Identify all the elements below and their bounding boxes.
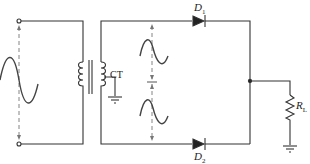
arrowhead-icon — [150, 136, 154, 141]
arrowhead-icon — [17, 25, 21, 30]
d1-label: D1 — [194, 2, 205, 16]
diode-d1-icon — [193, 16, 204, 26]
output-wire-top — [205, 21, 250, 144]
arrowhead-icon — [150, 75, 154, 80]
primary-wire-bottom — [21, 92, 83, 144]
arrowhead-icon — [150, 24, 154, 29]
input-terminal-top — [17, 19, 21, 23]
arrowhead-icon — [150, 84, 154, 89]
input-terminal-bottom — [17, 142, 21, 146]
upper-secondary-sine-wave-icon — [140, 40, 168, 64]
resistor-rl-icon — [286, 95, 294, 145]
ct-label: CT — [110, 70, 123, 80]
circuit-drawing — [0, 0, 310, 164]
secondary-wire-top — [101, 21, 192, 62]
diode-d2-icon — [193, 139, 204, 149]
primary-coil — [79, 62, 84, 92]
d2-label: D2 — [194, 151, 205, 164]
arrowhead-icon — [17, 135, 21, 140]
rectifier-circuit-diagram: D1 D2 CT RL — [0, 0, 310, 164]
lower-secondary-sine-wave-icon — [140, 100, 168, 124]
load-wire-top — [250, 81, 290, 95]
primary-wire-top — [21, 21, 83, 62]
rl-label: RL — [296, 100, 307, 114]
